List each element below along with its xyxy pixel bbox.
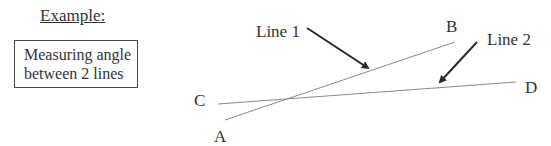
point-label-c: C <box>194 91 205 110</box>
point-label-a: A <box>214 127 227 146</box>
point-label-d: D <box>525 78 537 97</box>
point-label-b: B <box>446 17 457 36</box>
line-ab <box>225 42 455 120</box>
callout-line1: Line 1 <box>256 22 300 41</box>
line2-arrow <box>440 42 477 82</box>
angle-diagram: Line 1 Line 2 A B C D <box>0 0 551 146</box>
line-cd <box>218 82 516 104</box>
callout-line2: Line 2 <box>487 30 531 49</box>
line1-arrow <box>307 28 368 68</box>
